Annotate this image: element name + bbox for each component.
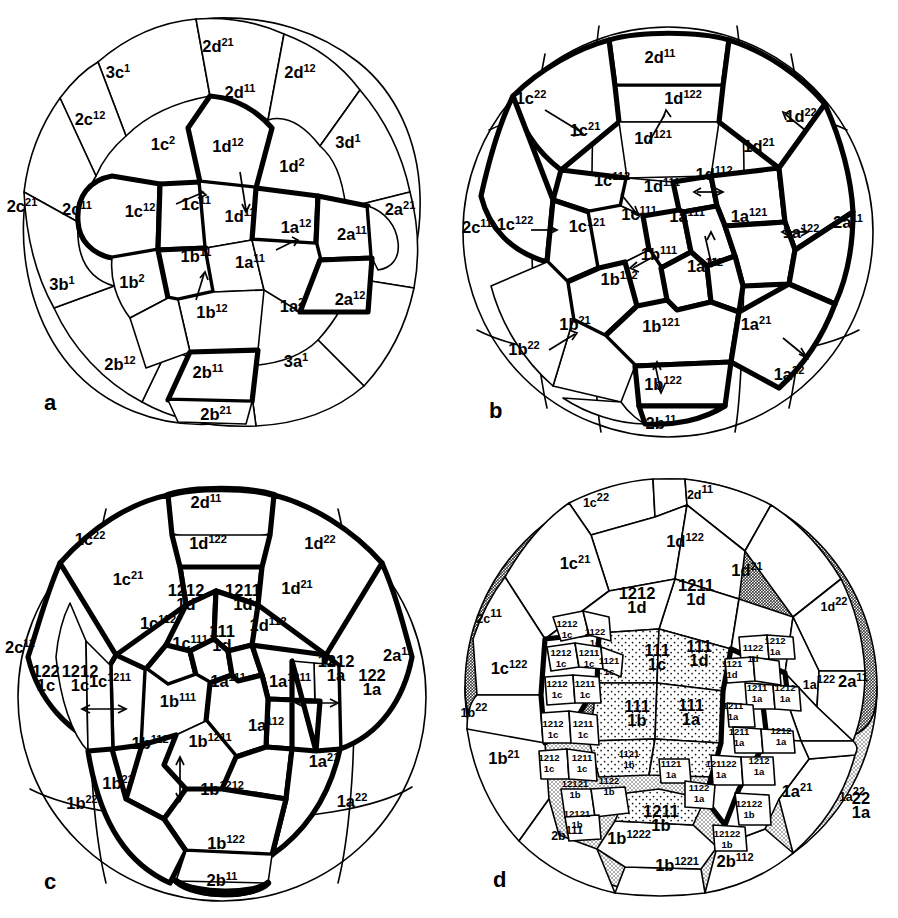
svg-text:1212: 1212 (770, 725, 791, 736)
svg-text:1122: 1122 (743, 642, 764, 653)
svg-text:1211: 1211 (729, 726, 750, 737)
panel-letter-b: b (489, 398, 502, 423)
svg-text:1a: 1a (734, 737, 745, 748)
svg-text:1121: 1121 (619, 748, 640, 759)
svg-text:1c: 1c (548, 729, 559, 740)
svg-text:1c: 1c (544, 763, 555, 774)
svg-text:1212: 1212 (748, 755, 769, 766)
svg-text:1d: 1d (212, 636, 231, 654)
svg-text:1c: 1c (556, 658, 567, 669)
cell-label: 1111c (644, 641, 670, 673)
panel-b: 2d111c221d1221d221c211d1211d211c1121d111… (449, 0, 898, 459)
svg-text:1d: 1d (747, 653, 758, 664)
panel-letter-a: a (44, 390, 57, 415)
svg-text:1c: 1c (648, 655, 666, 673)
svg-text:1a: 1a (666, 769, 677, 780)
svg-text:1a: 1a (752, 693, 763, 704)
svg-text:1212: 1212 (774, 682, 795, 693)
panel-letter-d: d (493, 867, 506, 892)
svg-text:1c: 1c (577, 763, 588, 774)
svg-text:1a: 1a (852, 803, 871, 821)
svg-text:121122: 121122 (705, 758, 736, 769)
svg-text:1212: 1212 (556, 618, 577, 629)
svg-text:1122: 1122 (599, 775, 620, 786)
svg-text:12122: 12122 (736, 798, 762, 809)
svg-text:1211: 1211 (747, 682, 768, 693)
svg-text:1b: 1b (651, 816, 670, 834)
svg-text:1121: 1121 (661, 758, 682, 769)
svg-text:1212: 1212 (550, 647, 571, 658)
svg-text:1c: 1c (584, 658, 595, 669)
svg-text:1121: 1121 (722, 658, 743, 669)
svg-text:1211: 1211 (575, 678, 596, 689)
svg-text:1c: 1c (580, 689, 591, 700)
cell-label: 221a (852, 789, 871, 821)
svg-text:12122: 12122 (714, 828, 740, 839)
svg-text:1c: 1c (604, 666, 615, 677)
svg-text:1212: 1212 (546, 678, 567, 689)
svg-text:1c: 1c (71, 676, 89, 694)
svg-text:12121: 12121 (562, 778, 589, 789)
figure-root: 3c12d212d122d112c121c21d121d23d12c212c11… (0, 0, 898, 918)
svg-text:1211: 1211 (723, 700, 744, 711)
svg-text:1b: 1b (603, 786, 614, 797)
cell-label: 1111b (624, 697, 650, 729)
cell-label: 1111d (209, 622, 235, 654)
svg-text:12121: 12121 (564, 808, 591, 819)
svg-text:1211: 1211 (579, 647, 600, 658)
svg-text:1212: 1212 (538, 752, 559, 763)
svg-text:1d: 1d (176, 595, 195, 613)
panel-a: 3c12d212d122d112c121c21d121d23d12c212c11… (0, 0, 449, 459)
svg-text:1d: 1d (233, 595, 252, 613)
svg-text:1c: 1c (552, 689, 563, 700)
svg-text:1b: 1b (743, 809, 754, 820)
svg-text:1212: 1212 (764, 635, 785, 646)
panel-d: 1c222d111c211d1221d212c111d221c1221a1222… (449, 459, 898, 918)
svg-text:1c: 1c (37, 676, 55, 694)
svg-text:1a: 1a (780, 693, 791, 704)
svg-text:1211: 1211 (572, 752, 593, 763)
svg-text:1122: 1122 (689, 782, 710, 793)
svg-text:1d: 1d (686, 590, 705, 608)
svg-text:1b: 1b (623, 759, 634, 770)
svg-text:1b: 1b (571, 819, 582, 830)
svg-text:1a: 1a (776, 736, 787, 747)
svg-text:1211: 1211 (573, 718, 594, 729)
svg-text:1121: 1121 (599, 655, 620, 666)
svg-text:1a: 1a (770, 646, 781, 657)
svg-text:1d: 1d (726, 669, 737, 680)
svg-text:1a: 1a (682, 710, 701, 728)
svg-text:1a: 1a (728, 711, 739, 722)
cell-label: 1111a (678, 696, 704, 728)
svg-text:1a: 1a (716, 769, 727, 780)
svg-text:1d: 1d (689, 651, 708, 669)
svg-text:1a: 1a (363, 680, 382, 698)
panel-c: 2d111c221d1221d221c211d211c1121d1121c111… (0, 459, 449, 918)
svg-text:1122: 1122 (585, 626, 606, 637)
svg-text:1c: 1c (562, 629, 573, 640)
cell-label: 1111d (686, 637, 712, 669)
panel-letter-c: c (44, 869, 56, 894)
svg-text:1212: 1212 (542, 718, 563, 729)
svg-text:1a: 1a (754, 766, 765, 777)
svg-text:1a: 1a (694, 793, 705, 804)
svg-text:1b: 1b (627, 711, 646, 729)
svg-text:1a: 1a (327, 666, 346, 684)
svg-text:1c: 1c (578, 729, 589, 740)
svg-text:1b: 1b (569, 789, 580, 800)
svg-text:1d: 1d (627, 598, 646, 616)
svg-text:1b: 1b (721, 839, 732, 850)
